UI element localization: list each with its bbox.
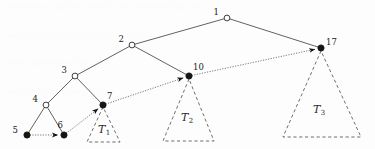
- subtree-label-sub-T2: 2: [189, 117, 193, 125]
- subtree-labels: T1T2T3: [98, 103, 325, 137]
- node-3[interactable]: [72, 73, 78, 79]
- node-label-3: 3: [62, 65, 67, 75]
- tree-diagram-figure: the shape of the tree is not affected by…: [0, 0, 375, 149]
- node-label-7: 7: [107, 91, 112, 101]
- search-path: [30, 49, 315, 135]
- path-segment-n6-n7: [67, 109, 98, 133]
- node-5[interactable]: [24, 132, 30, 138]
- subtree-label-T3: T3: [313, 103, 325, 117]
- edge-n3-n4: [48, 78, 73, 103]
- edge-n2-n3: [77, 46, 129, 75]
- edge-n1-n17: [229, 19, 318, 47]
- subtree-triangle-T3: [283, 51, 361, 137]
- diagram-canvas: 12345671017 T1T2T3: [0, 0, 375, 149]
- node-4[interactable]: [43, 102, 49, 108]
- node-7[interactable]: [100, 102, 106, 108]
- node-label-6: 6: [58, 120, 63, 130]
- subtree-triangle-T2: [163, 79, 214, 141]
- edge-n2-n10: [134, 46, 186, 75]
- node-17[interactable]: [318, 45, 324, 51]
- node-2[interactable]: [129, 42, 135, 48]
- node-label-2: 2: [119, 34, 124, 44]
- subtree-label-sub-T1: 1: [106, 129, 110, 137]
- node-1[interactable]: [224, 15, 230, 21]
- tree-nodes: [24, 15, 324, 138]
- subtree-label-T2: T2: [181, 111, 193, 125]
- edge-n1-n2: [135, 19, 225, 45]
- node-label-10: 10: [193, 62, 204, 72]
- node-6[interactable]: [61, 132, 67, 138]
- subtree-label-sub-T3: 3: [321, 109, 325, 117]
- path-segment-n10-n17: [192, 49, 315, 75]
- node-label-17: 17: [326, 37, 337, 47]
- subtree-label-T1: T1: [98, 123, 110, 137]
- node-label-1: 1: [214, 7, 219, 17]
- node-10[interactable]: [186, 73, 192, 79]
- edge-n3-n7: [77, 78, 101, 103]
- node-label-4: 4: [33, 94, 38, 104]
- node-label-5: 5: [13, 125, 18, 135]
- path-segment-n7-n10: [106, 78, 183, 104]
- edge-n4-n5: [28, 107, 44, 133]
- node-labels: 12345671017: [13, 7, 337, 135]
